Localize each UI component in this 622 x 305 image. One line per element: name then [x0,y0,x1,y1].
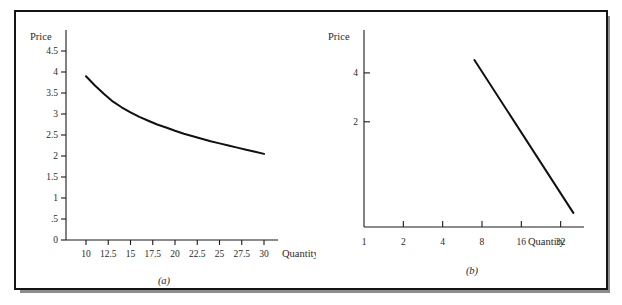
chart-a-x-ticks: 1012.51517.52022.52527.530 [81,240,269,259]
chart-a-x-tick-label: 10 [81,249,91,259]
chart-panel-a: 0.511.522.533.544.5 1012.51517.52022.525… [16,12,316,292]
chart-a-y-tick-label: 1 [53,193,58,203]
chart-a-y-tick-label: 2.5 [46,130,58,140]
chart-b-x-axis-title: Quantity [528,236,565,247]
chart-a-y-tick-label: 2 [53,151,58,161]
figure-root: 0.511.522.533.544.5 1012.51517.52022.525… [0,0,622,305]
chart-a-canvas: 0.511.522.533.544.5 1012.51517.52022.525… [16,12,316,292]
chart-a-x-tick-label: 25 [215,249,225,259]
chart-a-y-tick-label: 3.5 [46,88,58,98]
chart-a-y-ticks: 0.511.522.533.544.5 [46,46,66,245]
chart-a-x-tick-label: 20 [170,249,180,259]
chart-b-demand-line [474,60,573,213]
chart-panel-b: 24 12481632 Price Quantity (b) [312,12,610,292]
chart-a-demand-curve [86,76,264,154]
chart-b-x-tick-label: 2 [401,237,406,247]
chart-a-panel-caption: (a) [158,275,171,287]
chart-a-x-axis-title: Quantity [282,248,316,259]
chart-b-x-tick-label: 1 [362,237,367,247]
chart-a-x-tick-label: 12.5 [100,249,117,259]
chart-b-x-tick-label: 8 [480,237,485,247]
chart-a-y-tick-label: 3 [53,109,58,119]
chart-b-y-tick-label: 2 [353,117,358,127]
chart-a-y-tick-label: 4 [53,67,58,77]
chart-b-y-ticks: 24 [353,68,370,127]
figure-plate: 0.511.522.533.544.5 1012.51517.52022.525… [14,10,608,290]
chart-b-y-axis-title: Price [328,31,350,42]
chart-b-canvas: 24 12481632 Price Quantity (b) [312,12,610,292]
chart-a-x-tick-label: 15 [126,249,136,259]
chart-a-x-tick-label: 30 [259,249,269,259]
chart-a-y-tick-label: 0 [53,235,58,245]
chart-a-y-tick-label: .5 [51,214,58,224]
chart-a-x-tick-label: 27.5 [233,249,250,259]
chart-a-y-axis-title: Price [30,31,52,42]
chart-a-axes [66,30,278,240]
chart-b-x-tick-label: 16 [517,237,527,247]
chart-b-x-tick-label: 4 [440,237,445,247]
chart-a-x-tick-label: 17.5 [144,249,161,259]
chart-a-y-tick-label: 4.5 [46,46,58,56]
chart-b-panel-caption: (b) [466,265,479,277]
chart-a-y-tick-label: 1.5 [46,172,58,182]
chart-b-y-tick-label: 4 [353,68,358,78]
chart-a-x-tick-label: 22.5 [189,249,206,259]
